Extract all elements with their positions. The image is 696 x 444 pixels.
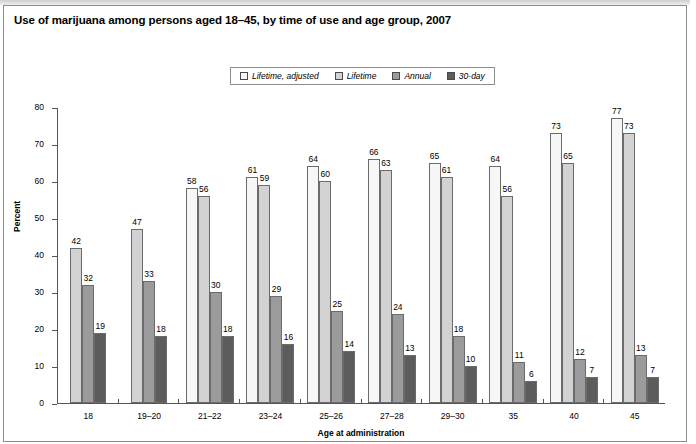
bar[interactable]: 73 bbox=[550, 133, 562, 403]
bar[interactable]: 29 bbox=[270, 296, 282, 403]
bar-value-label: 65 bbox=[563, 151, 572, 161]
bar-groups: 4232191847331819–205856301821–2261592916… bbox=[58, 108, 665, 403]
bar[interactable]: 56 bbox=[198, 196, 210, 403]
bar[interactable]: 18 bbox=[222, 336, 234, 403]
y-axis-tick-label: 20 bbox=[35, 324, 44, 334]
bar[interactable]: 65 bbox=[562, 163, 574, 404]
bar[interactable]: 32 bbox=[82, 285, 94, 403]
y-axis-tick: 10 bbox=[52, 367, 57, 368]
bar-value-label: 13 bbox=[636, 343, 645, 353]
bar-value-label: 56 bbox=[199, 184, 208, 194]
legend-item[interactable]: Annual bbox=[392, 71, 430, 81]
y-axis-tick: 80 bbox=[52, 108, 57, 109]
x-axis-tick-label: 23–24 bbox=[259, 411, 283, 421]
bar[interactable]: 14 bbox=[343, 351, 355, 403]
bar[interactable]: 13 bbox=[635, 355, 647, 403]
bar[interactable]: 11 bbox=[513, 362, 525, 403]
x-axis-tick-label: 19–20 bbox=[137, 411, 161, 421]
bar-value-label: 7 bbox=[650, 365, 655, 375]
bar-value-label: 10 bbox=[466, 354, 475, 364]
bar-value-label: 64 bbox=[491, 154, 500, 164]
bar-group: 6561181029–30 bbox=[422, 108, 483, 403]
bar[interactable]: 73 bbox=[623, 133, 635, 403]
y-axis-tick: 30 bbox=[52, 293, 57, 294]
legend-item-label: Lifetime bbox=[347, 71, 377, 81]
bar[interactable]: 19 bbox=[94, 333, 106, 403]
bar[interactable]: 64 bbox=[307, 166, 319, 403]
bar[interactable]: 18 bbox=[155, 336, 167, 403]
bar[interactable]: 16 bbox=[282, 344, 294, 403]
y-axis-tick: 0 bbox=[52, 404, 57, 405]
bar-value-label: 59 bbox=[260, 173, 269, 183]
bar[interactable]: 7 bbox=[586, 377, 598, 403]
bar[interactable]: 59 bbox=[258, 185, 270, 403]
legend-item[interactable]: 30-day bbox=[447, 71, 485, 81]
bar-value-label: 18 bbox=[454, 324, 463, 334]
legend-item-label: Annual bbox=[404, 71, 430, 81]
bar[interactable]: 66 bbox=[368, 159, 380, 403]
chart-legend: Lifetime, adjustedLifetimeAnnual30-day bbox=[230, 67, 495, 85]
bar-value-label: 32 bbox=[84, 273, 93, 283]
bar[interactable]: 47 bbox=[131, 229, 143, 403]
x-axis-tick-label: 27–28 bbox=[380, 411, 404, 421]
legend-item-label: 30-day bbox=[459, 71, 485, 81]
bar-value-label: 30 bbox=[211, 280, 220, 290]
y-axis-tick-label: 80 bbox=[35, 102, 44, 112]
bar-value-label: 61 bbox=[442, 165, 451, 175]
x-axis-tick-label: 25–26 bbox=[319, 411, 343, 421]
bar-value-label: 63 bbox=[381, 158, 390, 168]
legend-item-label: Lifetime, adjusted bbox=[252, 71, 319, 81]
bar[interactable]: 63 bbox=[380, 170, 392, 403]
bar[interactable]: 58 bbox=[186, 188, 198, 403]
bar-value-label: 16 bbox=[284, 332, 293, 342]
bar-value-label: 7 bbox=[590, 365, 595, 375]
legend-item[interactable]: Lifetime, adjusted bbox=[240, 71, 319, 81]
bar-value-label: 19 bbox=[96, 321, 105, 331]
bar[interactable]: 77 bbox=[611, 118, 623, 403]
bar[interactable]: 18 bbox=[453, 336, 465, 403]
bar-group: 6159291623–24 bbox=[240, 108, 301, 403]
bar[interactable]: 25 bbox=[331, 311, 343, 404]
x-axis-tick-label: 18 bbox=[84, 411, 93, 421]
bar-value-label: 60 bbox=[320, 169, 329, 179]
bar[interactable]: 30 bbox=[210, 292, 222, 403]
y-axis-title: Percent bbox=[12, 201, 22, 232]
bar[interactable]: 65 bbox=[429, 163, 441, 404]
legend-swatch-icon bbox=[392, 72, 400, 80]
bar[interactable]: 12 bbox=[574, 359, 586, 403]
bar[interactable]: 64 bbox=[489, 166, 501, 403]
bar-value-label: 12 bbox=[575, 347, 584, 357]
bar-value-label: 14 bbox=[344, 339, 353, 349]
bar[interactable]: 61 bbox=[246, 177, 258, 403]
y-axis-tick: 40 bbox=[52, 256, 57, 257]
bar-group: 47331819–20 bbox=[119, 108, 180, 403]
bar-value-label: 6 bbox=[529, 369, 534, 379]
bar[interactable]: 10 bbox=[465, 366, 477, 403]
y-axis-tick-label: 50 bbox=[35, 213, 44, 223]
legend-swatch-icon bbox=[447, 72, 455, 80]
bar[interactable]: 42 bbox=[70, 248, 82, 403]
y-axis-tick-label: 0 bbox=[39, 398, 44, 408]
bar[interactable]: 7 bbox=[647, 377, 659, 403]
legend-item[interactable]: Lifetime bbox=[335, 71, 377, 81]
bar[interactable]: 13 bbox=[404, 355, 416, 403]
bar[interactable]: 60 bbox=[319, 181, 331, 403]
bar-value-label: 18 bbox=[156, 324, 165, 334]
bar[interactable]: 6 bbox=[525, 381, 537, 403]
legend-swatch-icon bbox=[240, 72, 248, 80]
bar-group: 5856301821–22 bbox=[179, 108, 240, 403]
y-axis-tick: 20 bbox=[52, 330, 57, 331]
bar-value-label: 65 bbox=[430, 151, 439, 161]
x-axis-tick-label: 45 bbox=[630, 411, 639, 421]
bar-value-label: 64 bbox=[308, 154, 317, 164]
y-axis-tick: 70 bbox=[52, 145, 57, 146]
y-axis-tick-label: 70 bbox=[35, 139, 44, 149]
bar[interactable]: 61 bbox=[441, 177, 453, 403]
bar-value-label: 11 bbox=[515, 350, 524, 360]
bar-group: 6460251425–26 bbox=[301, 108, 362, 403]
bar[interactable]: 24 bbox=[392, 314, 404, 403]
x-axis-tick-label: 29–30 bbox=[441, 411, 465, 421]
bar-group: 6663241327–28 bbox=[362, 108, 423, 403]
bar[interactable]: 33 bbox=[143, 281, 155, 403]
bar[interactable]: 56 bbox=[501, 196, 513, 403]
